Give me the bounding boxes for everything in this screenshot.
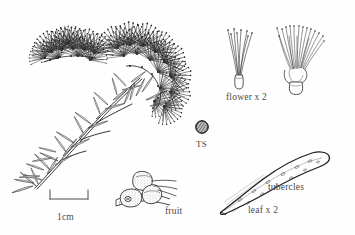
figure-flowering-branch bbox=[11, 18, 197, 192]
figure-flower-cluster bbox=[276, 25, 324, 94]
figure-fruit-cluster bbox=[116, 171, 177, 207]
scale-bar bbox=[50, 190, 88, 199]
label-fruit: fruit bbox=[165, 207, 182, 217]
branch-stem bbox=[35, 78, 142, 189]
illustration-plate: flower x 2 TS fruit tubercles leaf x 2 1… bbox=[0, 0, 355, 235]
inflorescence-left bbox=[22, 24, 119, 66]
illustration-canvas bbox=[0, 0, 355, 235]
figure-transverse-section bbox=[196, 121, 208, 133]
label-tubercles: tubercles bbox=[268, 183, 304, 193]
label-flower: flower x 2 bbox=[226, 93, 267, 103]
label-leaf: leaf x 2 bbox=[248, 206, 278, 216]
label-scale-bar: 1cm bbox=[57, 213, 74, 223]
figure-single-flower bbox=[227, 28, 253, 89]
label-transverse-section: TS bbox=[196, 140, 207, 149]
inflorescence-right bbox=[90, 18, 197, 131]
